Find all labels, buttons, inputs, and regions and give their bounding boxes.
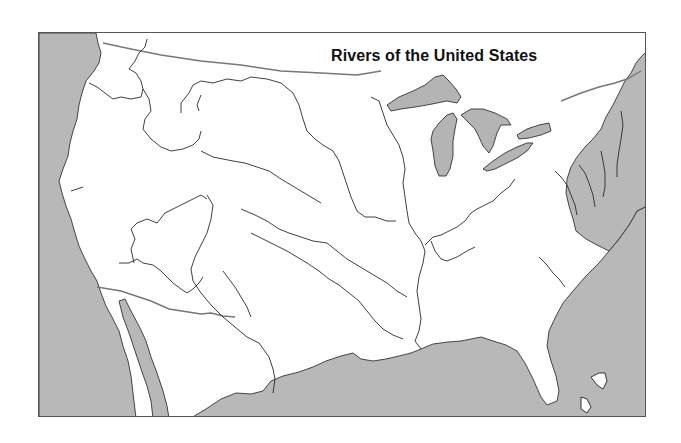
colorado-river xyxy=(119,259,203,293)
map-frame xyxy=(38,32,646,417)
arkansas-river xyxy=(241,209,407,297)
lake-ontario xyxy=(517,123,551,139)
lakes-layer xyxy=(387,75,551,176)
snake-river xyxy=(143,89,201,151)
map-title: Rivers of the United States xyxy=(331,47,537,65)
rivers-layer xyxy=(71,39,623,393)
missouri-river xyxy=(181,77,396,221)
lake-huron xyxy=(461,109,511,153)
mississippi-river xyxy=(371,97,425,349)
lake-superior xyxy=(387,75,461,111)
savannah-river xyxy=(539,257,565,287)
tennessee-river xyxy=(431,241,475,261)
red-river xyxy=(251,233,403,339)
pacific-ocean xyxy=(39,33,136,417)
rio-grande xyxy=(191,195,275,393)
us-mexico-border xyxy=(97,287,235,317)
yellowstone-river xyxy=(197,95,201,111)
platte-river xyxy=(201,151,321,203)
water-layer xyxy=(39,33,646,417)
lake-michigan xyxy=(431,113,457,176)
borders-layer xyxy=(97,43,641,317)
pecos-river xyxy=(223,271,251,317)
ohio-river xyxy=(425,179,515,245)
colorado-upper xyxy=(131,195,207,263)
sacramento-river xyxy=(71,187,83,191)
map-canvas xyxy=(39,33,646,417)
